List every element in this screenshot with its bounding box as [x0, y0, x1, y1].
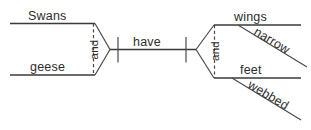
label-subject-conjunction: and: [88, 40, 100, 60]
diagram-canvas: Swans geese and have wings feet and narr…: [0, 0, 311, 130]
label-subject-second: geese: [30, 60, 65, 74]
label-object-second: feet: [240, 63, 262, 77]
label-object-conjunction: and: [209, 41, 221, 61]
label-subject-first: Swans: [28, 9, 67, 23]
label-modifier-webbed: webbed: [245, 77, 292, 113]
label-object-first: wings: [233, 10, 267, 24]
label-modifier-narrow: narrow: [251, 25, 293, 58]
sentence-diagram: Swans geese and have wings feet and narr…: [0, 0, 311, 130]
label-verb: have: [133, 35, 161, 49]
